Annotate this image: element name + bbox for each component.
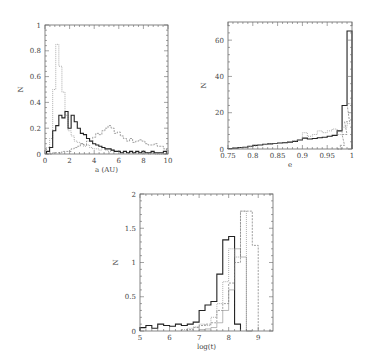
x-tick-label: 0 — [43, 157, 47, 165]
x-tick-label: 9 — [256, 334, 260, 342]
x-axis-label: log(t) — [197, 343, 216, 351]
histogram-series-solid — [47, 111, 167, 154]
x-tick-label: 6 — [117, 157, 122, 165]
histogram-series-thin — [199, 249, 252, 331]
histogram-series-dotted — [228, 124, 352, 149]
histogram-series-dotted — [181, 211, 252, 331]
y-tick-label: 1 — [37, 22, 41, 30]
y-axis-label: N — [17, 86, 25, 92]
y-tick-label: 0.5 — [125, 293, 136, 301]
x-tick-label: 7 — [197, 334, 201, 342]
plot-frame — [45, 25, 168, 154]
y-axis-label: N — [200, 82, 208, 88]
y-tick-label: 1.5 — [125, 225, 136, 233]
plot-frame — [228, 22, 352, 149]
y-tick-label: 0 — [220, 146, 224, 154]
x-tick-label: 2 — [67, 157, 71, 165]
histogram-series-solid — [140, 236, 240, 331]
y-tick-label: 2 — [132, 191, 136, 199]
y-axis-label: N — [112, 259, 120, 265]
y-tick-label: 20 — [215, 109, 224, 117]
y-tick-label: 0.4 — [30, 99, 42, 107]
y-tick-label: 0 — [37, 151, 41, 159]
y-tick-label: 60 — [215, 37, 224, 45]
x-tick-label: 8 — [141, 157, 145, 165]
plot-frame — [140, 194, 273, 331]
y-tick-label: 40 — [215, 73, 224, 81]
histogram-series-dashed — [47, 126, 167, 154]
histogram-series-solid — [228, 31, 352, 149]
histogram-panel-log-time: 5678900.511.52log(t)N — [112, 191, 273, 352]
x-tick-label: 5 — [138, 334, 142, 342]
x-tick-label: 10 — [164, 157, 173, 165]
y-tick-label: 1 — [132, 259, 136, 267]
x-tick-label: 8 — [226, 334, 230, 342]
x-tick-label: 0.95 — [319, 152, 335, 160]
histogram-panel-semi-major-axis: 024681000.20.40.60.81a (AU)N — [17, 22, 172, 175]
x-tick-label: 0.85 — [270, 152, 286, 160]
x-tick-label: 0.9 — [297, 152, 308, 160]
x-tick-label: 4 — [92, 157, 97, 165]
y-tick-label: 0.2 — [30, 125, 41, 133]
x-axis-label: a (AU) — [95, 166, 118, 174]
y-tick-label: 0.6 — [30, 73, 42, 81]
histogram-series-dotted — [47, 44, 167, 154]
x-tick-label: 1 — [350, 152, 354, 160]
histogram-panel-eccentricity: 0.750.80.850.90.9510204060eN — [200, 22, 354, 169]
y-tick-label: 0.8 — [30, 47, 41, 55]
figure: 024681000.20.40.60.81a (AU)N 0.750.80.85… — [0, 0, 371, 364]
histogram-series-dashed — [337, 104, 352, 149]
x-tick-label: 0.8 — [247, 152, 258, 160]
y-tick-label: 0 — [132, 328, 136, 336]
x-tick-label: 6 — [167, 334, 172, 342]
x-axis-label: e — [288, 161, 292, 169]
